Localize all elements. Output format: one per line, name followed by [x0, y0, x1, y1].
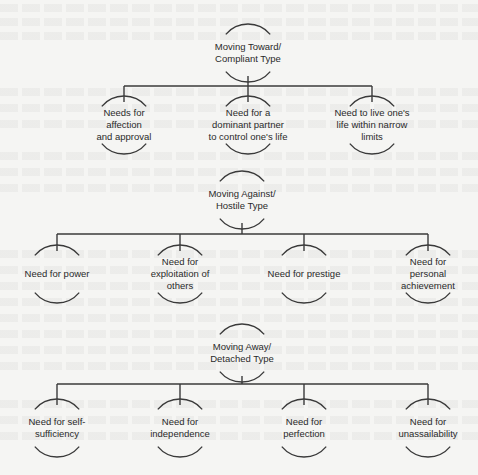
moving-toward-child-label: Needs for affection and approval [97, 107, 152, 143]
personality-types-diagram [0, 0, 478, 475]
moving-against-child-label: Need for exploitation of others [151, 256, 210, 292]
moving-toward-child-label: Need to live one's life within narrow li… [334, 107, 409, 143]
moving-away-child-label: Need for self- sufficiency [28, 416, 85, 440]
moving-away-root-label: Moving Away/ Detached Type [210, 341, 274, 365]
moving-against-child-label: Need for personal achievement [401, 256, 455, 292]
moving-toward-child-label: Need for a dominant partner to control o… [209, 107, 288, 143]
moving-away-child-label: Need for independence [150, 416, 210, 440]
moving-against-child-label: Need for power [25, 268, 90, 280]
moving-against-root-label: Moving Against/ Hostile Type [208, 188, 275, 212]
moving-away-child-label: Need for unassailability [398, 416, 457, 440]
moving-against-child-label: Need for prestige [268, 268, 341, 280]
moving-toward-root-label: Moving Toward/ Compliant Type [215, 41, 281, 65]
moving-away-child-label: Need for perfection [283, 416, 325, 440]
